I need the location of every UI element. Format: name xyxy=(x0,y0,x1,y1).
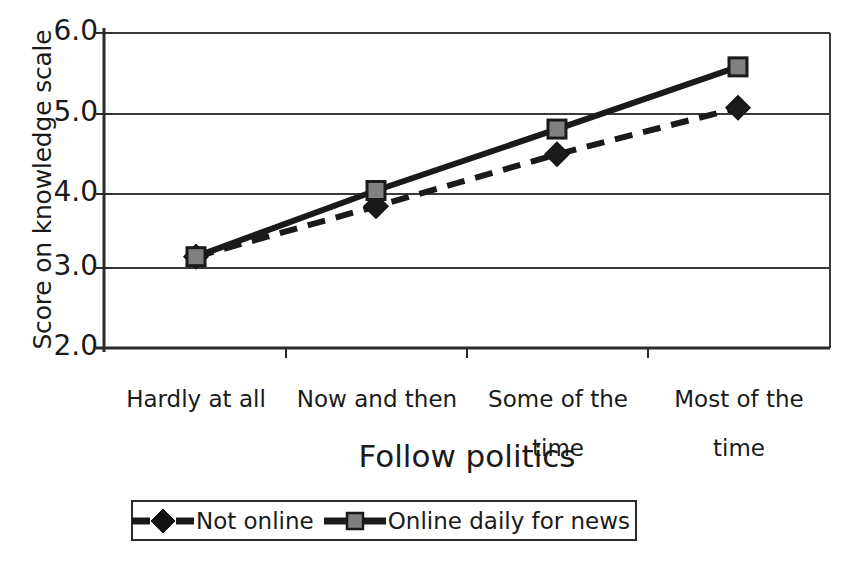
legend-entry-not-online[interactable]: Not online xyxy=(130,508,322,534)
square-marker-icon xyxy=(322,508,388,534)
series-online-daily xyxy=(187,58,747,266)
diamond-marker-icon xyxy=(130,508,196,534)
x-tick-label-1: Hardly at all xyxy=(106,362,286,436)
x-tick-label-1-line1: Hardly at all xyxy=(106,387,286,412)
data-point-marker xyxy=(729,58,747,76)
chart-legend: Not online Online daily for news xyxy=(131,500,637,541)
data-point-marker xyxy=(187,248,205,266)
data-point-marker xyxy=(726,96,750,120)
data-point-marker xyxy=(548,120,566,138)
gridlines xyxy=(104,33,830,268)
legend-label-online-daily: Online daily for news xyxy=(388,508,638,534)
data-point-marker xyxy=(367,182,385,200)
x-tick-label-3-line1: Some of the xyxy=(468,387,648,412)
legend-entry-online-daily[interactable]: Online daily for news xyxy=(322,508,638,534)
series-line-online-daily xyxy=(196,67,738,257)
data-point-marker xyxy=(545,142,569,166)
x-tick-label-2-line1: Now and then xyxy=(287,387,467,412)
series-not-online xyxy=(184,96,750,269)
x-axis-title: Follow politics xyxy=(104,438,830,474)
series-markers-not-online xyxy=(184,96,750,269)
legend-label-not-online: Not online xyxy=(196,508,322,534)
x-tick-label-2: Now and then xyxy=(287,362,467,436)
chart-figure: Score on knowledge scale 6.0 5.0 4.0 3.0… xyxy=(0,0,848,561)
series-line-not-online xyxy=(196,108,738,257)
x-tick-label-4-line1: Most of the xyxy=(649,387,829,412)
